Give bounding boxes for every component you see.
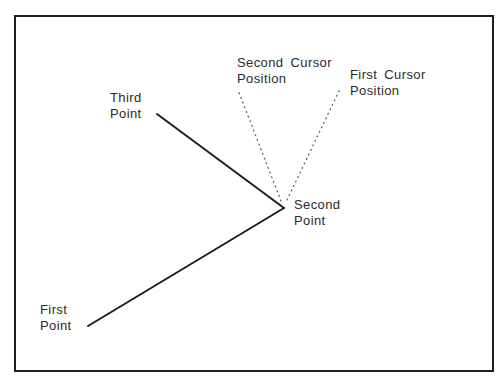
label-first-point-line1: First — [40, 302, 72, 318]
label-second-cursor-line1: Second Cursor — [237, 55, 332, 71]
label-third-point: Third Point — [110, 90, 142, 121]
label-first-cursor-line2: Position — [350, 83, 426, 99]
label-first-point-line2: Point — [40, 318, 72, 334]
label-third-point-line1: Third — [110, 90, 142, 106]
label-third-point-line2: Point — [110, 106, 142, 122]
segment-second-to-third — [157, 114, 284, 208]
label-second-cursor-line2: Position — [237, 71, 332, 87]
dotted-ray-first-cursor — [287, 89, 340, 200]
label-second-point-line2: Point — [294, 213, 341, 229]
segment-first-to-second — [88, 208, 284, 326]
label-first-cursor-line1: First Cursor — [350, 67, 426, 83]
label-second-cursor-position: Second Cursor Position — [237, 55, 332, 86]
label-second-point: Second Point — [294, 197, 341, 228]
label-first-point: First Point — [40, 302, 72, 333]
label-second-point-line1: Second — [294, 197, 341, 213]
label-first-cursor-position: First Cursor Position — [350, 67, 426, 98]
dotted-ray-second-cursor — [238, 90, 281, 201]
